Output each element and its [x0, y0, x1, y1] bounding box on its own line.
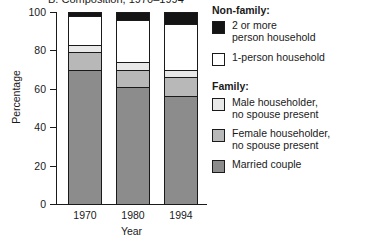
bar-segment-1980-female-householder-no-spouse-present — [116, 70, 150, 88]
y-tick-label-80: 80 — [18, 45, 46, 55]
bar-segment-1970-female-householder-no-spouse-present — [68, 52, 102, 70]
bar-1994 — [164, 12, 198, 204]
bar-segment-1970-male-householder-no-spouse-present — [68, 45, 102, 54]
legend-item-female-householder: Female householder, no spouse present — [212, 128, 364, 151]
bar-1980 — [116, 12, 150, 204]
bar-segment-1994-female-householder-no-spouse-present — [164, 77, 198, 97]
legend-item-married-couple: Married couple — [212, 159, 364, 173]
y-tick-label-40: 40 — [18, 122, 46, 132]
legend-item-1-person-household: 1-person household — [212, 52, 364, 66]
plot-area — [56, 12, 206, 204]
x-tick-label-1994: 1994 — [151, 209, 211, 221]
y-tick-label-60: 60 — [18, 84, 46, 94]
legend-item-male-householder: Male householder, no spouse present — [212, 97, 364, 120]
legend-label-female-householder: Female householder, no spouse present — [232, 128, 330, 151]
bar-segment-1994-married-couple — [164, 96, 198, 205]
bar-segment-1994-2-or-more-person-household — [164, 12, 198, 25]
x-axis-title: Year — [56, 225, 207, 237]
bar-segment-1970-married-couple — [68, 70, 102, 205]
chart-title: B. Composition, 1970–1994 — [48, 0, 184, 5]
legend-heading-nonfamily: Non-family: — [212, 4, 364, 16]
bar-segment-1994-1-person-household — [164, 24, 198, 71]
y-tick-label-0: 0 — [18, 199, 46, 209]
legend-swatch-male-householder — [212, 98, 225, 111]
bar-segment-1980-2-or-more-person-household — [116, 12, 150, 21]
chart-legend: Non-family: 2 or more person household 1… — [212, 4, 364, 173]
legend-label-male-householder: Male householder, no spouse present — [232, 97, 318, 120]
bar-segment-1970-2-or-more-person-household — [68, 12, 102, 17]
bar-segment-1980-married-couple — [116, 87, 150, 205]
legend-item-2-or-more-person-household: 2 or more person household — [212, 20, 364, 43]
legend-heading-family: Family: — [212, 80, 364, 92]
bar-segment-1980-male-householder-no-spouse-present — [116, 62, 150, 71]
y-tick-label-100: 100 — [18, 7, 46, 17]
y-tick-0 — [50, 204, 56, 205]
y-tick-label-20: 20 — [18, 161, 46, 171]
legend-label-1-person-household: 1-person household — [232, 52, 325, 64]
legend-swatch-married-couple — [212, 160, 225, 173]
bar-segment-1980-1-person-household — [116, 20, 150, 63]
legend-label-2-or-more-person-household: 2 or more person household — [232, 20, 315, 43]
legend-label-married-couple: Married couple — [232, 159, 301, 171]
legend-swatch-2-or-more-person-household — [212, 21, 225, 34]
bar-segment-1970-1-person-household — [68, 16, 102, 46]
bar-1970 — [68, 12, 102, 204]
bar-segment-1994-male-householder-no-spouse-present — [164, 70, 198, 79]
legend-swatch-female-householder — [212, 129, 225, 142]
legend-swatch-1-person-household — [212, 53, 225, 66]
